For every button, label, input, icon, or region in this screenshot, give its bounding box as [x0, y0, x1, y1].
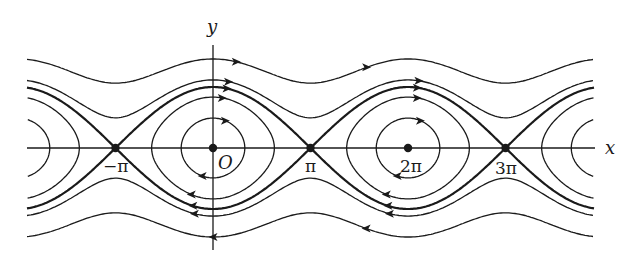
tick-label-3pi: 3π [495, 158, 517, 178]
closed-orbit [28, 120, 50, 148]
center-point [209, 144, 217, 152]
y-axis-label: y [206, 16, 218, 37]
open-orbit [27, 178, 593, 216]
arrow-left [198, 172, 207, 180]
arrow-right [221, 117, 230, 125]
open-orbit [27, 59, 593, 83]
arrow-left [385, 210, 394, 218]
tick-label-pi: π [305, 156, 316, 176]
arrow-left [190, 210, 199, 218]
arrow-right [232, 58, 241, 66]
arrow-left [187, 190, 196, 198]
arrow-right [416, 117, 425, 125]
arrow-left [382, 190, 391, 198]
tick-label-2pi: 2π [400, 156, 422, 176]
closed-orbit [28, 148, 50, 176]
saddle-point [306, 144, 314, 152]
saddle-point [111, 144, 119, 152]
phase-portrait-svg: x y O −π π 2π 3π [0, 0, 640, 264]
arrow-right [362, 63, 371, 71]
origin-label: O [218, 152, 233, 173]
phase-portrait-figure: x y O −π π 2π 3π [0, 0, 640, 264]
x-axis-label: x [605, 137, 615, 158]
arrow-left [362, 224, 371, 232]
center-point [404, 144, 412, 152]
open-orbit [27, 213, 593, 237]
saddle-point [501, 144, 509, 152]
open-orbit [27, 80, 593, 118]
tick-label-neg-pi: −π [103, 156, 128, 176]
